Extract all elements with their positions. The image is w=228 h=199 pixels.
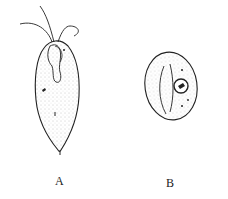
protozoa-figure: A B xyxy=(0,0,228,199)
cyst-b-body xyxy=(141,49,202,124)
panel-b-organism xyxy=(141,49,202,124)
flagellum-icon xyxy=(20,23,52,42)
panel-label-a: A xyxy=(55,174,64,189)
flagellum-icon xyxy=(58,26,78,42)
cell-a-body xyxy=(35,41,79,152)
panel-a-organism xyxy=(20,6,79,155)
panel-label-b: B xyxy=(166,176,174,191)
flagellum-icon xyxy=(40,6,54,42)
